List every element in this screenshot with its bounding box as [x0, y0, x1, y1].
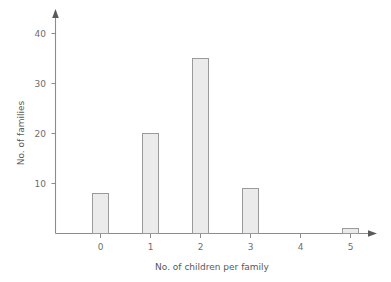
- y-tick-label-30: 30: [35, 79, 47, 89]
- bar-2: [193, 59, 209, 234]
- y-tick-label-40: 40: [35, 29, 47, 39]
- y-axis-ticks: [52, 34, 56, 184]
- bar-chart-figure: 10 20 30 40 0 1 2 3 4 5 No. of children …: [0, 0, 391, 282]
- x-axis-arrow-icon: [368, 230, 377, 237]
- x-tick-label-2: 2: [198, 242, 204, 252]
- bar-5: [343, 229, 359, 234]
- x-axis-title: No. of children per family: [155, 262, 270, 272]
- x-tick-label-3: 3: [248, 242, 254, 252]
- y-tick-label-10: 10: [35, 179, 47, 189]
- x-tick-label-0: 0: [98, 242, 104, 252]
- bars-group: [93, 59, 359, 234]
- bar-1: [143, 134, 159, 234]
- x-axis-ticks: [101, 234, 351, 239]
- bar-0: [93, 194, 109, 234]
- y-axis-arrow-icon: [52, 9, 59, 18]
- bar-3: [243, 189, 259, 234]
- chart-canvas: 10 20 30 40 0 1 2 3 4 5 No. of children …: [0, 0, 391, 282]
- x-tick-label-4: 4: [298, 242, 304, 252]
- y-axis-title: No. of families: [16, 100, 26, 165]
- x-tick-label-5: 5: [348, 242, 354, 252]
- x-tick-label-1: 1: [148, 242, 154, 252]
- y-tick-label-20: 20: [35, 129, 47, 139]
